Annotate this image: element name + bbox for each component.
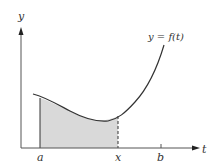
t-axis-label: t — [202, 143, 207, 156]
area-function-diagram: y t a x b y = f(t) — [0, 0, 214, 166]
shaded-area — [40, 98, 118, 148]
y-axis-arrow-icon — [19, 27, 24, 35]
a-label: a — [37, 151, 44, 164]
y-axis-label: y — [17, 10, 25, 23]
x-label: x — [115, 151, 122, 164]
curve-label: y = f(t) — [147, 31, 184, 42]
t-axis-arrow-icon — [192, 146, 200, 151]
b-label: b — [157, 151, 164, 164]
